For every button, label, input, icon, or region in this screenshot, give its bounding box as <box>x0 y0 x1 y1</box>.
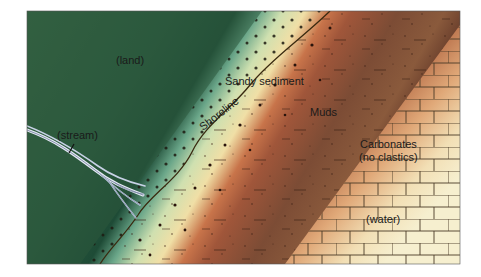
label-carbonates: Carbonates <box>360 138 417 150</box>
label-muds: Muds <box>310 106 337 118</box>
label-stream: (stream) <box>57 129 98 141</box>
label-land: (land) <box>116 54 144 66</box>
label-sandy-sediment: Sandy sediment <box>225 75 304 87</box>
label-water: (water) <box>366 213 400 225</box>
sedimentary-environments-diagram: (land) (stream) Sandy sediment Shoreline… <box>0 0 481 277</box>
label-no-clastics: (no clastics) <box>359 151 418 163</box>
